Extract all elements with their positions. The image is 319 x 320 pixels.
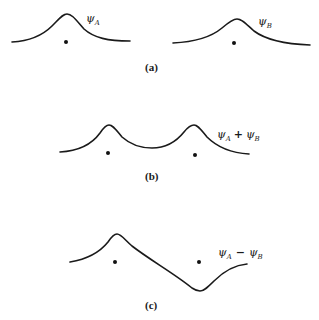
psi-diff-label: ψA−ψB (218, 246, 263, 261)
caption-c: (c) (145, 299, 158, 312)
nucleus-b-dot (232, 41, 236, 45)
nucleus-b-dot (197, 260, 201, 264)
psi-a-label: ψA (86, 12, 100, 27)
psi-a-curve (12, 14, 130, 42)
caption-b: (b) (145, 170, 159, 183)
psi-sum-label: ψA+ψB (217, 128, 260, 143)
panel-b: ψA+ψB (b) (60, 125, 260, 183)
panel-c: ψA−ψB (c) (70, 234, 263, 312)
caption-a: (a) (145, 61, 158, 74)
nucleus-b-dot (193, 153, 197, 157)
psi-diff-curve (70, 234, 247, 291)
nucleus-a-dot (113, 260, 117, 264)
nucleus-a-dot (64, 40, 68, 44)
nucleus-a-dot (106, 151, 110, 155)
panel-a: ψA ψB (a) (12, 12, 310, 74)
wavefunction-figure: ψA ψB (a) ψA+ψB (b) ψA−ψB (c) (0, 0, 319, 320)
psi-b-curve (173, 19, 310, 45)
psi-b-label: ψB (258, 15, 272, 30)
